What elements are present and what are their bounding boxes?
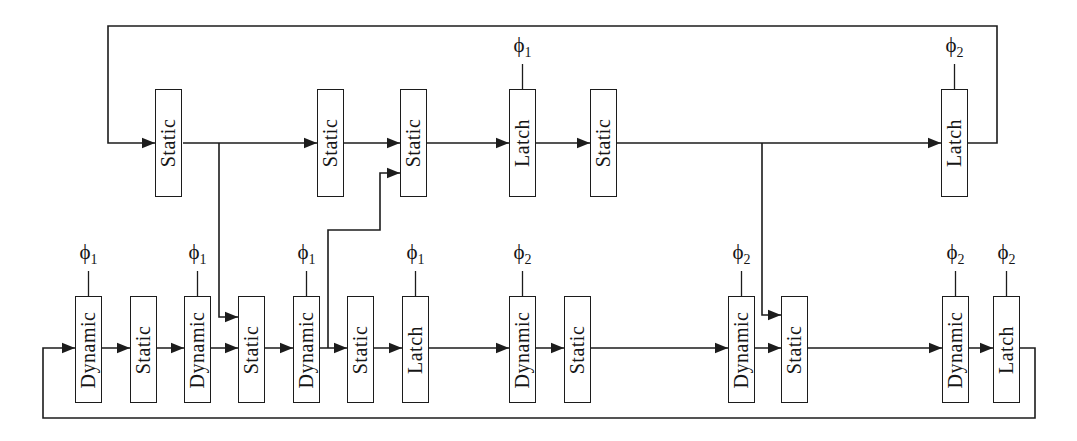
clock-label-phi2: ϕ2	[997, 241, 1015, 267]
block-label: Latch	[945, 119, 965, 167]
phi-symbol: ϕ	[945, 33, 956, 57]
phi-symbol: ϕ	[732, 240, 743, 264]
block-dynamic: Dynamic	[728, 296, 755, 403]
block-label: Static	[134, 325, 154, 374]
block-static: Static	[130, 296, 157, 403]
arrowhead-icon	[117, 343, 130, 353]
block-dynamic: Dynamic	[942, 296, 969, 403]
arrowhead-icon	[387, 138, 400, 148]
phi-subscript: 1	[525, 45, 532, 60]
phi-subscript: 1	[200, 252, 207, 267]
arrowhead-icon	[304, 138, 317, 148]
phi-symbol: ϕ	[406, 240, 417, 264]
block-label: Dynamic	[188, 311, 208, 388]
phi-subscript: 1	[309, 252, 316, 267]
phi-subscript: 1	[418, 252, 425, 267]
arrowhead-icon	[496, 138, 509, 148]
block-dynamic: Dynamic	[293, 296, 320, 403]
arrowhead-icon	[768, 343, 781, 353]
phi-symbol: ϕ	[997, 240, 1008, 264]
arrowhead-icon	[171, 343, 184, 353]
block-label: Static	[159, 119, 179, 168]
block-latch: Latch	[993, 296, 1020, 403]
block-latch: Latch	[402, 296, 429, 403]
arrowhead-icon	[389, 343, 402, 353]
block-dynamic: Dynamic	[184, 296, 211, 403]
block-latch: Latch	[941, 89, 968, 197]
block-static: Static	[400, 89, 427, 197]
branch-top-to-bottom-right-wire	[762, 143, 781, 315]
block-latch: Latch	[509, 89, 536, 197]
arrowhead-icon	[280, 343, 293, 353]
phi-symbol: ϕ	[297, 240, 308, 264]
arrowhead-icon	[929, 343, 942, 353]
block-label: Static	[242, 325, 262, 374]
block-label: Static	[321, 119, 341, 168]
phi-subscript: 2	[1009, 252, 1016, 267]
arrowhead-icon	[496, 343, 509, 353]
arrowhead-icon	[334, 343, 347, 353]
phi-symbol: ϕ	[513, 33, 524, 57]
arrowhead-icon	[768, 310, 781, 320]
clock-label-phi2: ϕ2	[945, 34, 963, 60]
arrowhead-icon	[928, 138, 941, 148]
clock-label-phi2: ϕ2	[732, 241, 750, 267]
branch-top-to-bottom-left-wire	[219, 143, 238, 317]
wiring	[0, 0, 1077, 441]
block-static: Static	[238, 296, 265, 403]
block-dynamic: Dynamic	[509, 296, 536, 403]
arrowhead-icon	[225, 312, 238, 322]
block-static: Static	[590, 89, 617, 197]
clock-label-phi1: ϕ1	[188, 241, 206, 267]
block-static: Static	[155, 89, 182, 197]
block-dynamic: Dynamic	[75, 296, 102, 403]
pipeline-diagram: StaticStaticStaticLatchϕ1StaticLatchϕ2Dy…	[0, 0, 1077, 441]
arrowhead-icon	[142, 138, 155, 148]
clock-label-phi2: ϕ2	[946, 241, 964, 267]
clock-label-phi1: ϕ1	[513, 34, 531, 60]
arrowhead-icon	[551, 343, 564, 353]
block-label: Latch	[406, 325, 426, 373]
phi-subscript: 2	[957, 45, 964, 60]
block-label: Static	[594, 119, 614, 168]
arrowhead-icon	[577, 138, 590, 148]
arrowhead-icon	[387, 168, 400, 178]
arrowhead-icon	[225, 343, 238, 353]
phi-subscript: 2	[744, 252, 751, 267]
block-static: Static	[347, 296, 374, 403]
phi-symbol: ϕ	[946, 240, 957, 264]
arrowhead-icon	[62, 343, 75, 353]
block-label: Dynamic	[946, 311, 966, 388]
block-label: Latch	[997, 325, 1017, 373]
block-static: Static	[317, 89, 344, 197]
block-label: Static	[785, 325, 805, 374]
block-label: Latch	[513, 119, 533, 167]
arrowhead-icon	[715, 343, 728, 353]
top-feedback-wire	[108, 26, 997, 143]
block-label: Dynamic	[513, 311, 533, 388]
block-label: Dynamic	[297, 311, 317, 388]
arrowhead-icon	[980, 343, 993, 353]
block-label: Dynamic	[732, 311, 752, 388]
phi-subscript: 2	[958, 252, 965, 267]
phi-symbol: ϕ	[513, 240, 524, 264]
phi-symbol: ϕ	[79, 240, 90, 264]
phi-subscript: 1	[91, 252, 98, 267]
clock-label-phi2: ϕ2	[513, 241, 531, 267]
block-static: Static	[564, 296, 591, 403]
block-label: Static	[404, 119, 424, 168]
block-static: Static	[781, 296, 808, 403]
clock-stub-wires	[89, 64, 1007, 296]
block-label: Dynamic	[79, 311, 99, 388]
block-label: Static	[568, 325, 588, 374]
clock-label-phi1: ϕ1	[297, 241, 315, 267]
block-label: Static	[351, 325, 371, 374]
clock-label-phi1: ϕ1	[406, 241, 424, 267]
clock-label-phi1: ϕ1	[79, 241, 97, 267]
phi-symbol: ϕ	[188, 240, 199, 264]
phi-subscript: 2	[525, 252, 532, 267]
